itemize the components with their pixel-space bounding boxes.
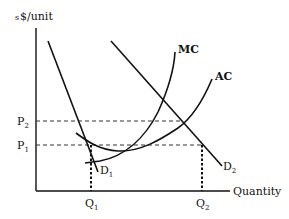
- d1-curve: [48, 41, 98, 172]
- q2-label: Q2: [196, 197, 210, 212]
- mc-label: MC: [178, 43, 199, 56]
- d1-label: D1: [100, 164, 113, 179]
- x-axis-label: Quantity: [233, 185, 282, 198]
- ac-curve: [76, 79, 212, 151]
- d2-label: D2: [223, 160, 236, 175]
- cost-demand-diagram: s $/unit Quantity P2 P1 Q1 Q2 MC AC D1 D…: [0, 0, 289, 219]
- y-axis-label: $/unit: [20, 10, 53, 23]
- d2-curve: [111, 41, 222, 166]
- ac-label: AC: [214, 70, 233, 83]
- q1-label: Q1: [85, 197, 99, 212]
- p1-label: P1: [17, 139, 29, 154]
- y-axis-prefix: s: [15, 13, 19, 22]
- p2-label: P2: [17, 115, 29, 130]
